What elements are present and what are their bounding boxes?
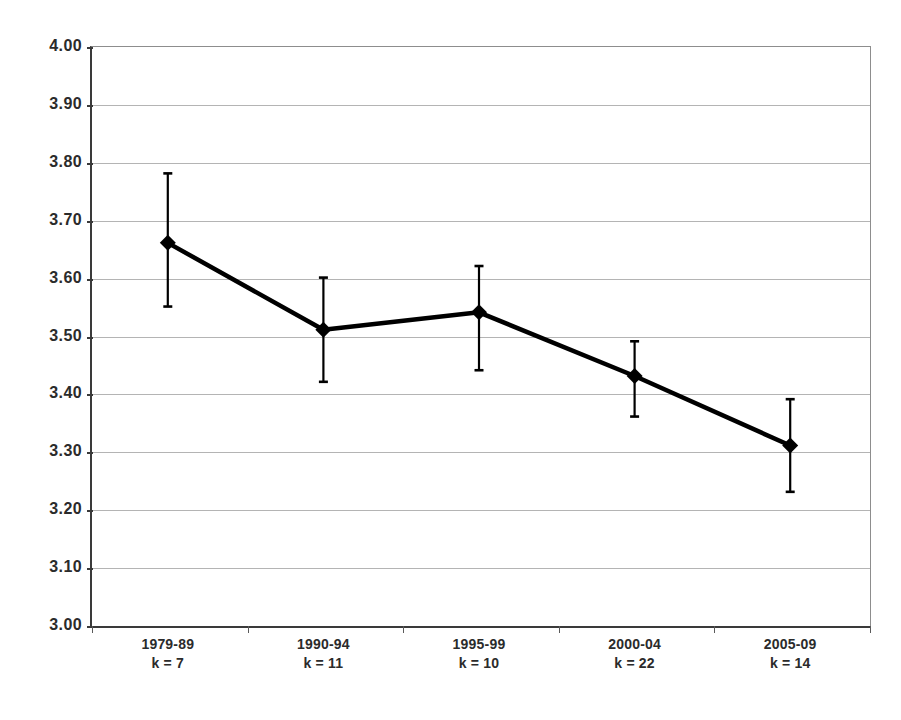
x-axis-tick-label-group: 1979-89k = 71990-94k = 111995-99k = 1020… [90,636,868,696]
x-axis-tick-mark [714,626,715,633]
y-axis-tick-label: 3.20 [6,500,82,518]
x-axis-tick-label: 2000-04k = 22 [608,636,661,671]
y-axis-tick-label-group: 4.003.903.803.703.603.503.403.303.203.10… [0,46,82,625]
y-axis-tick-label: 3.60 [6,269,82,287]
x-axis-period-label: 1979-89 [141,636,194,652]
chart-container: 4.003.903.803.703.603.503.403.303.203.10… [0,0,901,720]
x-axis-k-count-label: k = 14 [764,655,817,671]
x-axis-tick-label: 1995-99k = 10 [453,636,506,671]
y-axis-tick-label: 3.90 [6,95,82,113]
error-bar-group [163,173,794,491]
y-axis-tick-label: 3.50 [6,327,82,345]
y-axis-tick-label: 3.40 [6,384,82,402]
x-axis-period-label: 1995-99 [453,636,506,652]
x-axis-tick-mark [870,626,871,633]
data-point-marker [782,438,798,454]
x-axis-k-count-label: k = 22 [608,655,661,671]
x-axis-k-count-label: k = 10 [453,655,506,671]
data-point-marker [627,368,643,384]
x-axis-tick-label: 1990-94k = 11 [297,636,350,671]
x-axis-period-label: 1990-94 [297,636,350,652]
x-axis-tick-mark [248,626,249,633]
y-axis-tick-label: 4.00 [6,37,82,55]
x-axis-tick-mark [403,626,404,633]
x-axis-tick-label: 1979-89k = 7 [141,636,194,671]
x-axis-tick-mark [92,626,93,633]
data-point-marker [471,304,487,320]
y-axis-tick-label: 3.10 [6,558,82,576]
y-axis-tick-label: 3.30 [6,442,82,460]
x-axis-k-count-label: k = 7 [141,655,194,671]
y-axis-tick-label: 3.70 [6,211,82,229]
data-series-layer [90,46,868,625]
x-axis-period-label: 2000-04 [608,636,661,652]
x-axis-k-count-label: k = 11 [297,655,350,671]
x-axis-tick-label: 2005-09k = 14 [764,636,817,671]
y-axis-tick-label: 3.00 [6,616,82,634]
y-axis-tick-label: 3.80 [6,153,82,171]
x-axis-period-label: 2005-09 [764,636,817,652]
x-axis-tick-mark [559,626,560,633]
